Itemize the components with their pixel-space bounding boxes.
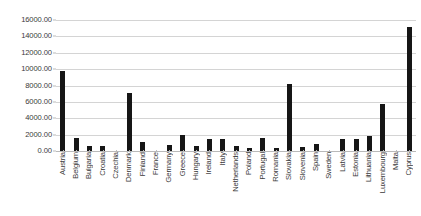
x-tick-mark bbox=[143, 150, 144, 152]
x-tick-mark bbox=[396, 150, 397, 152]
x-tick-mark bbox=[409, 150, 410, 152]
x-tick-mark bbox=[103, 150, 104, 152]
y-axis: 0.002000.004000.006000.008000.0010000.00… bbox=[0, 20, 52, 151]
gridline bbox=[56, 118, 416, 119]
x-tick-label: Lithuania bbox=[365, 152, 373, 182]
x-tick-label: Estonia bbox=[352, 152, 360, 177]
x-tick-label: Belgium bbox=[72, 152, 80, 179]
x-tick-mark bbox=[116, 150, 117, 152]
bar bbox=[287, 84, 292, 151]
bar bbox=[407, 27, 412, 151]
x-tick-label: Poland bbox=[245, 152, 253, 175]
y-tick-label: 0.00 bbox=[38, 147, 52, 155]
x-tick-label: France bbox=[152, 152, 160, 175]
x-tick-label: Slovakia bbox=[285, 152, 293, 180]
y-tick-label: 6000.00 bbox=[25, 98, 52, 106]
x-tick-label: Ireland bbox=[205, 152, 213, 175]
bar bbox=[380, 104, 385, 151]
x-tick-label: Czechia bbox=[112, 152, 120, 179]
x-tick-mark bbox=[156, 150, 157, 152]
gridline bbox=[56, 135, 416, 136]
x-tick-label: Portugal bbox=[259, 152, 267, 179]
x-tick-mark bbox=[196, 150, 197, 152]
x-tick-label: Bulgaria bbox=[85, 152, 93, 179]
x-tick-mark bbox=[383, 150, 384, 152]
x-tick-label: Netherlands bbox=[232, 152, 240, 192]
x-tick-label: Hungary bbox=[192, 152, 200, 180]
y-tick-label: 4000.00 bbox=[25, 114, 52, 122]
gridline bbox=[56, 53, 416, 54]
gridline bbox=[56, 86, 416, 87]
x-tick-mark bbox=[356, 150, 357, 152]
y-tick-label: 8000.00 bbox=[25, 82, 52, 90]
bar-chart: 0.002000.004000.006000.008000.0010000.00… bbox=[0, 0, 421, 216]
x-tick-label: Austria bbox=[59, 152, 67, 175]
x-tick-label: Denmark bbox=[125, 152, 133, 182]
x-tick-mark bbox=[316, 150, 317, 152]
x-tick-mark bbox=[369, 150, 370, 152]
x-tick-label: Cyprus bbox=[405, 152, 413, 175]
x-tick-mark bbox=[129, 150, 130, 152]
x-tick-mark bbox=[343, 150, 344, 152]
y-tick-label: 2000.00 bbox=[25, 131, 52, 139]
x-tick-label: Luxembourg bbox=[379, 152, 387, 193]
x-tick-mark bbox=[209, 150, 210, 152]
bar bbox=[127, 93, 132, 151]
x-tick-label: Spain bbox=[312, 152, 320, 171]
x-tick-label: Latvia bbox=[339, 152, 347, 172]
y-tick-label: 12000.00 bbox=[21, 49, 52, 57]
gridline bbox=[56, 36, 416, 37]
x-tick-mark bbox=[89, 150, 90, 152]
x-tick-mark bbox=[303, 150, 304, 152]
plot-area bbox=[56, 20, 416, 151]
x-tick-mark bbox=[289, 150, 290, 152]
gridline bbox=[56, 102, 416, 103]
x-tick-label: Greece bbox=[179, 152, 187, 176]
x-tick-mark bbox=[263, 150, 264, 152]
x-tick-mark bbox=[223, 150, 224, 152]
y-tick-label: 14000.00 bbox=[21, 32, 52, 40]
y-tick-label: 16000.00 bbox=[21, 16, 52, 24]
x-tick-mark bbox=[236, 150, 237, 152]
bar bbox=[180, 135, 185, 151]
x-tick-label: Slovenia bbox=[299, 152, 307, 180]
x-tick-mark bbox=[169, 150, 170, 152]
y-tick-label: 10000.00 bbox=[21, 65, 52, 73]
x-tick-label: Italy bbox=[219, 152, 227, 165]
bar bbox=[367, 136, 372, 151]
x-tick-mark bbox=[276, 150, 277, 152]
x-tick-mark bbox=[249, 150, 250, 152]
x-tick-mark bbox=[183, 150, 184, 152]
gridline bbox=[56, 69, 416, 70]
x-tick-label: Malta bbox=[392, 152, 400, 170]
x-tick-label: Croatia bbox=[99, 152, 107, 176]
x-tick-label: Finland bbox=[139, 152, 147, 176]
x-axis: AustriaBelgiumBulgariaCroatiaCzechiaDenm… bbox=[56, 152, 416, 216]
bar bbox=[74, 138, 79, 151]
x-tick-mark bbox=[329, 150, 330, 152]
gridline bbox=[56, 20, 416, 21]
x-tick-mark bbox=[76, 150, 77, 152]
x-tick-mark bbox=[63, 150, 64, 152]
x-tick-label: Germany bbox=[165, 152, 173, 183]
x-tick-label: Romania bbox=[272, 152, 280, 182]
bar bbox=[60, 71, 65, 151]
x-tick-label: Sweden bbox=[325, 152, 333, 179]
